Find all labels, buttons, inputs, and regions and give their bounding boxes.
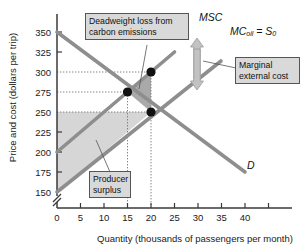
producer-surplus-callout: Producer surplus <box>89 171 131 198</box>
x-tick-label-40: 40 <box>235 212 255 223</box>
x-tick-label-0: 0 <box>47 212 67 223</box>
y-tick-label-325: 325 <box>25 47 51 58</box>
dwl-callout-line-2: carbon emissions <box>89 27 185 38</box>
y-axis-title: Price and cost (dollars per trip) <box>7 23 18 173</box>
x-tick-label-15: 15 <box>118 212 138 223</box>
mc-oil-curve-label: MCoil = S0 <box>230 25 276 37</box>
marker-msc-at-market-q <box>146 67 155 76</box>
x-tick-label-30: 30 <box>188 212 208 223</box>
x-tick-label-35: 35 <box>212 212 232 223</box>
y-tick-label-300: 300 <box>25 67 51 78</box>
dwl-callout-line-1: Deadweight loss from <box>89 16 185 27</box>
x-tick-label-10: 10 <box>94 212 114 223</box>
mc-label-main: MC <box>230 25 246 37</box>
y-tick-label-175: 175 <box>25 167 51 178</box>
y-tick-label-225: 225 <box>25 127 51 138</box>
mec-callout-line-1: Marginal <box>239 60 296 71</box>
msc-curve-label: MSC <box>199 11 222 23</box>
x-tick-label-25: 25 <box>165 212 185 223</box>
demand-curve-label: D <box>247 159 255 171</box>
marker-market-equilibrium <box>146 107 155 116</box>
mc-label-s-subscript: 0 <box>272 30 276 37</box>
x-tick-label-5: 5 <box>71 212 91 223</box>
y-tick-label-250: 250 <box>25 107 51 118</box>
marginal-external-cost-callout: Marginal external cost <box>235 57 300 84</box>
x-tick-label-20: 20 <box>141 212 161 223</box>
mec-callout-line-2: external cost <box>239 71 296 82</box>
y-tick-label-275: 275 <box>25 87 51 98</box>
deadweight-loss-callout: Deadweight loss from carbon emissions <box>85 13 189 40</box>
x-axis-title: Quantity (thousands of passengers per mo… <box>97 233 293 244</box>
ps-callout-line-2: surplus <box>93 185 127 196</box>
mc-label-equals: = S <box>253 25 272 37</box>
y-tick-label-150: 150 <box>25 187 51 198</box>
y-tick-label-200: 200 <box>25 147 51 158</box>
marginal-external-cost-arrow <box>191 38 204 90</box>
marker-efficient-point <box>123 87 132 96</box>
ps-callout-line-1: Producer <box>93 174 127 185</box>
y-tick-label-350: 350 <box>25 27 51 38</box>
